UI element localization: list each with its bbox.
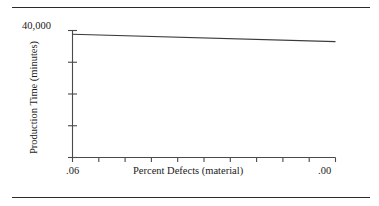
- y-axis: [68, 31, 77, 158]
- x-axis: [73, 158, 336, 163]
- figure-container: 40,000 .06 .00 Percent Defects (material…: [0, 0, 379, 206]
- x-axis-title: Percent Defects (material): [133, 166, 243, 177]
- y-axis-title: Production Time (minutes): [28, 28, 39, 168]
- x-axis-right-tick-label: .00: [318, 166, 331, 177]
- data-series-line: [73, 34, 336, 41]
- x-axis-left-tick-label: .06: [66, 166, 79, 177]
